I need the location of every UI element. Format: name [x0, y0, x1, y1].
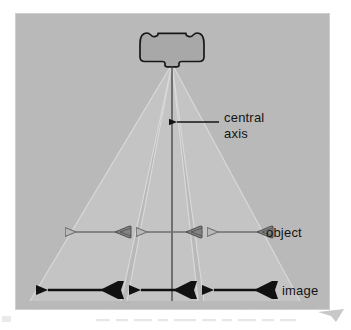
optics-figure: central axis object image — [0, 0, 351, 330]
ray-diagram-canvas — [0, 0, 351, 330]
label-central-axis-line1: central — [224, 110, 264, 125]
label-image: image — [282, 283, 318, 299]
label-central-axis-line2: axis — [224, 126, 264, 142]
lamp-source-icon — [140, 33, 204, 67]
label-object: object — [266, 225, 302, 241]
label-central-axis: central axis — [224, 110, 264, 142]
